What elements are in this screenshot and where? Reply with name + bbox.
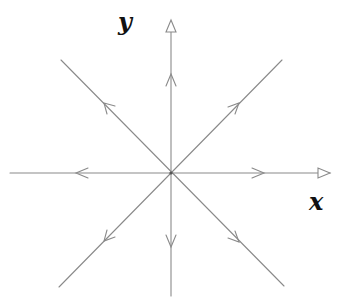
arrow-lower-right-icon bbox=[228, 231, 239, 242]
x-axis-arrowhead-icon bbox=[318, 168, 330, 178]
phase-portrait-diagram bbox=[0, 0, 342, 298]
arrow-upper-right-icon bbox=[228, 103, 239, 114]
x-axis-label: x bbox=[309, 190, 323, 214]
origin-point bbox=[169, 171, 172, 174]
y-axis-label: y bbox=[118, 10, 132, 34]
y-axis-arrowhead-icon bbox=[166, 20, 176, 32]
